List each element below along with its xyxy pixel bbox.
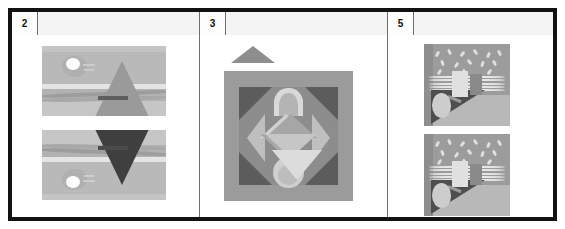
header-cell-2[interactable]: 3 (200, 12, 387, 35)
header-cell-3[interactable]: 5 (388, 12, 553, 35)
table-cell-column-5[interactable] (388, 35, 553, 217)
sun-ray-1 (83, 64, 95, 66)
sky-top-band (42, 46, 166, 52)
mountain-triangle (95, 61, 149, 116)
table-cell-column-3[interactable] (200, 35, 387, 217)
egg-shape (432, 183, 451, 208)
row-number-5: 5 (388, 12, 414, 35)
dark-card (470, 74, 482, 95)
landscape-thumbnail-upright[interactable] (42, 46, 166, 116)
table-inner: 2 3 5 (12, 12, 553, 217)
sun-icon (66, 176, 80, 188)
dark-card (470, 164, 482, 185)
artwork-table: 2 3 5 (8, 8, 557, 221)
header-blank-1[interactable] (38, 12, 199, 35)
still-life-thumbnail-top[interactable] (424, 44, 510, 126)
egg-shape (432, 93, 451, 118)
sun-icon (66, 58, 80, 70)
sun-ray-1 (83, 180, 95, 182)
row-number-2: 2 (12, 12, 38, 35)
table-cell-column-2[interactable] (12, 35, 199, 217)
sky-top-band (42, 194, 166, 200)
light-card (452, 161, 467, 187)
row-number-3: 3 (200, 12, 226, 35)
sun-ray-2 (84, 69, 94, 71)
dark-bar (98, 96, 128, 100)
geometric-mandala[interactable] (224, 71, 353, 201)
standalone-triangle-icon (231, 46, 275, 63)
table-header-row: 2 3 5 (12, 12, 553, 35)
mountain-triangle (95, 130, 149, 185)
header-blank-3[interactable] (414, 12, 553, 35)
header-blank-2[interactable] (226, 12, 387, 35)
header-cell-1[interactable]: 2 (12, 12, 199, 35)
still-life-thumbnail-bottom[interactable] (424, 134, 510, 216)
lower-spike-triangle (272, 150, 322, 180)
page-root: 2 3 5 (0, 0, 565, 229)
light-card (452, 71, 467, 97)
dark-bar (98, 146, 128, 150)
sun-ray-2 (84, 175, 94, 177)
landscape-thumbnail-flipped[interactable] (42, 130, 166, 200)
